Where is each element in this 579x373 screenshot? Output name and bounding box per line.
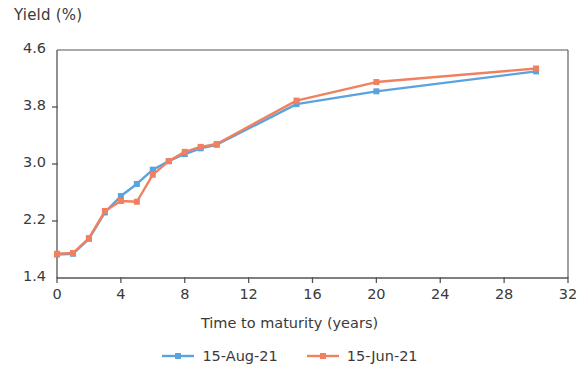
axis-ticks <box>52 107 568 283</box>
data-point-marker <box>373 88 379 94</box>
data-series-group <box>54 66 539 258</box>
data-point-marker <box>70 250 76 256</box>
x-tick-label: 12 <box>234 286 264 302</box>
data-point-marker <box>134 181 140 187</box>
axis-lines <box>57 50 568 278</box>
data-point-marker <box>533 66 539 72</box>
series-line <box>57 69 536 254</box>
data-point-marker <box>373 79 379 85</box>
y-tick-label: 3.0 <box>4 154 46 170</box>
data-point-marker <box>118 198 124 204</box>
legend-marker-icon <box>161 350 195 362</box>
data-point-marker <box>182 149 188 155</box>
chart-legend: 15-Aug-2115-Jun-21 <box>0 348 579 364</box>
x-tick-label: 28 <box>489 286 519 302</box>
y-tick-label: 1.4 <box>4 268 46 284</box>
x-tick-label: 24 <box>425 286 455 302</box>
x-tick-label: 16 <box>298 286 328 302</box>
legend-item[interactable]: 15-Jun-21 <box>306 348 418 364</box>
data-point-marker <box>86 235 92 241</box>
data-point-marker <box>102 208 108 214</box>
data-point-marker <box>150 172 156 178</box>
x-axis-title: Time to maturity (years) <box>0 315 579 331</box>
x-tick-label: 32 <box>553 286 579 302</box>
x-tick-label: 8 <box>170 286 200 302</box>
x-tick-label: 4 <box>106 286 136 302</box>
legend-marker-icon <box>306 350 340 362</box>
data-point-marker <box>214 141 220 147</box>
x-tick-label: 20 <box>361 286 391 302</box>
yield-curve-chart: Yield (%) 1.42.23.03.84.6 04812162024283… <box>0 0 579 373</box>
data-point-marker <box>294 98 300 104</box>
data-point-marker <box>134 199 140 205</box>
data-point-marker <box>54 251 60 257</box>
x-tick-label: 0 <box>42 286 72 302</box>
data-point-marker <box>198 144 204 150</box>
y-tick-label: 3.8 <box>4 97 46 113</box>
legend-label: 15-Aug-21 <box>202 348 277 364</box>
y-tick-label: 4.6 <box>4 40 46 56</box>
y-tick-label: 2.2 <box>4 211 46 227</box>
legend-item[interactable]: 15-Aug-21 <box>161 348 277 364</box>
data-point-marker <box>166 158 172 164</box>
legend-label: 15-Jun-21 <box>347 348 418 364</box>
